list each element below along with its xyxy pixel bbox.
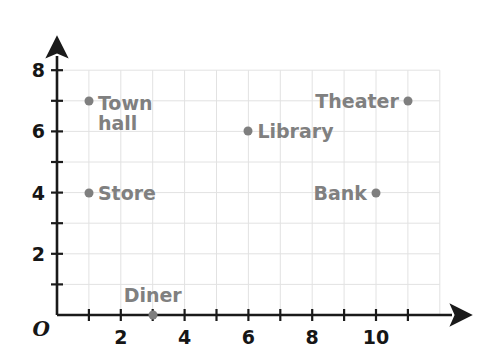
data-point-diner[interactable] [148,311,157,320]
data-point-theater[interactable] [403,96,412,105]
data-point-label-town-hall: Town hall [98,94,153,134]
y-axis-tick-label-6: 6 [32,122,45,141]
coordinate-plane-chart: 2468102468 O Town hallStoreLibraryTheate… [0,0,484,361]
x-axis-tick-label-8: 8 [306,328,319,347]
x-axis-tick-label-6: 6 [242,328,255,347]
data-point-label-theater: Theater [315,92,399,112]
y-axis-tick-label-8: 8 [32,61,45,80]
data-point-store[interactable] [84,188,93,197]
origin-label: O [33,319,50,339]
x-axis-tick-label-10: 10 [363,328,389,347]
data-point-label-diner: Diner [124,286,182,306]
data-point-library[interactable] [244,127,253,136]
data-point-label-library: Library [257,122,333,142]
data-point-label-bank: Bank [314,184,367,204]
data-point-label-store: Store [98,184,156,204]
data-point-town-hall[interactable] [84,96,93,105]
y-axis-tick-label-2: 2 [32,244,45,263]
axes [0,0,484,361]
y-axis-tick-label-4: 4 [32,183,45,202]
x-axis-tick-label-2: 2 [114,328,127,347]
data-point-bank[interactable] [372,188,381,197]
x-axis-tick-label-4: 4 [178,328,191,347]
